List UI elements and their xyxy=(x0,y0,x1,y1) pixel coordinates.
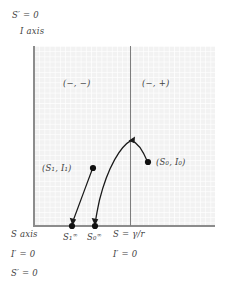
trajectory-right-upper-path xyxy=(132,140,148,161)
label-i-prime-zero-left: I′ = 0 xyxy=(11,249,35,259)
trajectory-right-path xyxy=(96,141,131,221)
label-s1-infinity-base: S₁ xyxy=(63,232,73,242)
label-s0-infinity-base: S₀ xyxy=(87,232,97,242)
label-s0-infinity: S₀∞ xyxy=(87,231,102,242)
point-marker-s1-infinity xyxy=(69,223,75,229)
point-marker-s0-infinity xyxy=(92,223,98,229)
label-i-prime-zero-right: I′ = 0 xyxy=(113,249,137,259)
label-threshold: S = γ/r xyxy=(113,229,145,239)
label-s-prime-zero-bottom: S′ = 0 xyxy=(11,268,38,278)
point-marker-s0-i0 xyxy=(145,159,151,165)
label-s0-infinity-sup: ∞ xyxy=(97,231,102,238)
label-s1-infinity: S₁∞ xyxy=(63,231,78,242)
label-point-s1-i1: (S₁, I₁) xyxy=(42,163,72,173)
label-point-s0-i0: (S₀, I₀) xyxy=(156,157,186,167)
label-s-axis: S axis xyxy=(11,229,38,239)
phase-plane-figure: S′ = 0 I axis (−, −) (−, +) (S₁, I₁) (S₀… xyxy=(0,0,230,293)
point-marker-s1-i1 xyxy=(90,165,96,171)
trajectory-left-path xyxy=(73,170,92,221)
trajectory-right-arrowhead-top xyxy=(129,137,136,144)
label-s1-infinity-sup: ∞ xyxy=(73,231,78,238)
